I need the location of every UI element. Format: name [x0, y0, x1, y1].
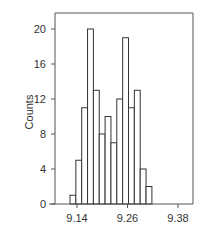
histogram-chart: 048121620 9.149.269.38 Counts [0, 0, 202, 234]
histogram-bar [76, 160, 82, 204]
histogram-bar [129, 108, 135, 204]
x-axis: 9.149.269.38 [49, 204, 193, 224]
histogram-bar [140, 169, 146, 204]
histogram-bar [105, 117, 111, 205]
x-tick-label: 9.14 [66, 212, 87, 224]
histogram-bar [117, 99, 123, 204]
y-tick-label: 20 [34, 23, 46, 35]
bars-group [70, 29, 152, 204]
histogram-bar [88, 29, 94, 204]
y-tick-label: 16 [34, 58, 46, 70]
histogram-bar [134, 90, 140, 204]
x-tick-label: 9.26 [117, 212, 138, 224]
y-tick-label: 8 [40, 128, 46, 140]
histogram-bar [93, 90, 99, 204]
histogram-bar [123, 38, 129, 204]
y-tick-label: 4 [40, 163, 46, 175]
histogram-bar [146, 187, 152, 205]
y-axis: 048121620 [34, 23, 55, 210]
histogram-bar [111, 143, 117, 204]
y-axis-label: Counts [23, 94, 35, 129]
histogram-bar [99, 134, 105, 204]
histogram-bar [70, 195, 76, 204]
y-tick-label: 0 [40, 198, 46, 210]
y-tick-label: 12 [34, 93, 46, 105]
histogram-bar [82, 108, 88, 204]
x-tick-label: 9.38 [167, 212, 188, 224]
